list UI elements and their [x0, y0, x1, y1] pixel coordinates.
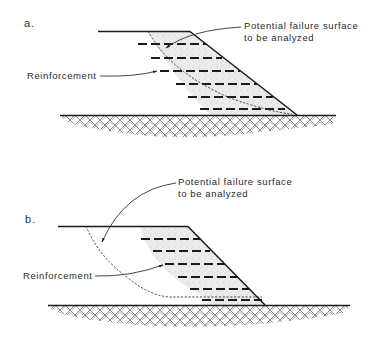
reinforcement-label: Reinforcement: [27, 70, 97, 81]
foundation-soil-hatch: [50, 306, 348, 327]
reinforcement-leader-arrow: [95, 265, 163, 276]
failure-surface-label-line2: to be analyzed: [244, 32, 314, 43]
panel-b: b. Potential failure surface to be analy…: [23, 176, 350, 327]
reinforcement-label: Reinforcement: [23, 270, 93, 281]
reinforced-zone: [140, 226, 265, 305]
reinforced-slope-diagram: a. Potential failure surface to be analy…: [0, 0, 378, 340]
foundation-soil-hatch: [62, 116, 333, 137]
panel-a-label: a.: [24, 17, 35, 29]
reinforcement-leader-arrow: [100, 71, 157, 76]
failure-surface-label-line2: to be analyzed: [178, 188, 248, 199]
panel-b-label: b.: [25, 213, 36, 225]
panel-a: a. Potential failure surface to be analy…: [24, 17, 358, 137]
failure-surface-label-line1: Potential failure surface: [244, 20, 358, 31]
failure-surface-label-line1: Potential failure surface: [178, 176, 292, 187]
